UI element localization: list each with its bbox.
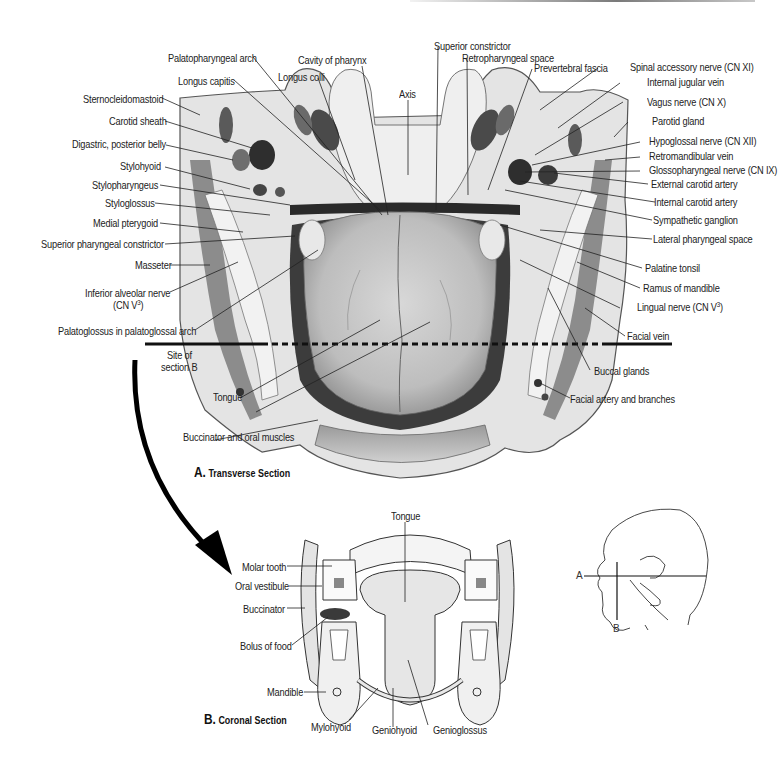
label-palatine-tonsil: Palatine tonsil	[645, 262, 700, 274]
label-styloglossus: Styloglossus	[105, 197, 155, 209]
label-sympathetic-ganglion: Sympathetic ganglion	[653, 214, 738, 226]
label-retromandibular-vein: Retromandibular vein	[649, 150, 733, 162]
label-parotid-gland: Parotid gland	[652, 115, 704, 127]
label-mylohyoid: Mylohyoid	[311, 721, 351, 733]
label-glossopharyngeal-nerve: Glossopharyngeal nerve (CN IX)	[649, 164, 777, 176]
label-inferior-alveolar-nerve: Inferior alveolar nerve	[85, 287, 170, 299]
label-genioglossus: Genioglossus	[433, 724, 487, 736]
label-molar-tooth: Molar tooth	[242, 561, 286, 573]
label-hypoglossal-nerve: Hypoglossal nerve (CN XII)	[649, 135, 756, 147]
label-palatopharyngeal-arch: Palatopharyngeal arch	[168, 52, 257, 64]
label-section-b: section B	[161, 361, 197, 373]
label-geniohyoid: Geniohyoid	[372, 724, 417, 736]
section-b-title: B. Coronal Section	[204, 711, 287, 727]
label-stylohyoid: Stylohyoid	[120, 160, 161, 172]
label-buccinator: Buccinator	[243, 603, 285, 615]
label-plane-b: B	[613, 623, 620, 634]
label-longus-capitis: Longus capitis	[178, 75, 235, 87]
label-mandible: Mandible	[267, 686, 303, 698]
label-axis: Axis	[399, 88, 416, 100]
label-prevertebral-fascia: Prevertebral fascia	[534, 62, 608, 74]
label-tongue-a: Tongue	[213, 391, 242, 403]
label-superior-pharyngeal-constrictor: Superior pharyngeal constrictor	[41, 238, 164, 250]
label-internal-jugular-vein: Internal jugular vein	[647, 76, 724, 88]
transverse-section	[180, 68, 628, 478]
label-medial-pterygoid: Medial pterygoid	[93, 217, 158, 229]
label-internal-carotid-artery: Internal carotid artery	[654, 196, 737, 208]
label-ramus-of-mandible: Ramus of mandible	[643, 282, 720, 294]
label-facial-artery: Facial artery and branches	[570, 393, 675, 405]
label-stylopharyngeus: Stylopharyngeus	[92, 179, 158, 191]
label-spinal-accessory-nerve: Spinal accessory nerve (CN XI)	[630, 61, 754, 73]
section-a-title: A. Transverse Section	[194, 464, 290, 480]
orientation-head-sketch	[584, 509, 708, 630]
label-sternocleidomastoid: Sternocleidomastoid	[83, 93, 163, 105]
label-inferior-alveolar-nerve-cn: (CN V3)	[113, 299, 143, 311]
label-facial-vein: Facial vein	[627, 330, 669, 342]
label-cavity-of-pharynx: Cavity of pharynx	[298, 54, 366, 66]
label-lingual-nerve: Lingual nerve (CN V3)	[637, 301, 723, 313]
label-bolus-of-food: Bolus of food	[240, 640, 292, 652]
label-superior-constrictor: Superior constrictor	[434, 40, 511, 52]
label-masseter: Masseter	[135, 259, 172, 271]
label-longus-colli: Longus colli	[278, 71, 325, 83]
label-external-carotid-artery: External carotid artery	[651, 178, 737, 190]
label-vagus-nerve: Vagus nerve (CN X)	[647, 96, 726, 108]
label-lateral-pharyngeal-space: Lateral pharyngeal space	[653, 233, 753, 245]
label-digastric-posterior-belly: Digastric, posterior belly	[72, 138, 166, 150]
label-oral-vestibule: Oral vestibule	[235, 580, 289, 592]
label-buccinator-oral-muscles: Buccinator and oral muscles	[183, 431, 294, 443]
coronal-section	[301, 535, 514, 725]
label-tongue-b: Tongue	[391, 510, 420, 522]
label-palatoglossus: Palatoglossus in palatoglossal arch	[58, 325, 196, 337]
label-buccal-glands: Buccal glands	[594, 365, 649, 377]
label-site-of: Site of	[167, 349, 192, 361]
label-carotid-sheath: Carotid sheath	[109, 115, 167, 127]
label-plane-a: A	[576, 570, 583, 581]
